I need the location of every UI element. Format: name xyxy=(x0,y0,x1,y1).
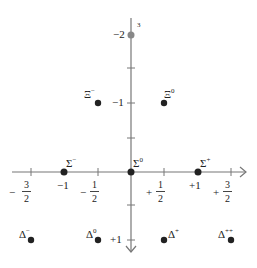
xi-zero-dot xyxy=(161,100,167,106)
label-sigma-zero: Σ0 xyxy=(133,157,143,169)
h-label-minus-3-2: 32 xyxy=(22,180,31,204)
sigma-plus-dot xyxy=(195,169,202,176)
top-marker-label: 3 xyxy=(137,22,141,29)
h-label-sign: − xyxy=(80,186,86,198)
label-delta-plusplus: Δ++ xyxy=(218,228,233,240)
delta-plus-dot xyxy=(161,237,167,243)
h-label-sign: − xyxy=(9,186,15,198)
label-delta-minus: Δ− xyxy=(19,228,30,240)
h-label-plus-3-2: 32 xyxy=(223,180,232,204)
h-label-plus-1-2: 12 xyxy=(156,180,165,204)
xi-minus-dot xyxy=(95,100,101,106)
h-label-plus1: +1 xyxy=(189,180,201,191)
sigma-zero-dot xyxy=(128,169,135,176)
v-label-plus1: +1 xyxy=(110,234,122,245)
label-sigma-plus: Σ+ xyxy=(200,157,210,169)
h-label-minus-1-2: 12 xyxy=(90,180,99,204)
label-sigma-minus: Σ− xyxy=(66,157,76,169)
h-label-sign: + xyxy=(213,186,219,198)
label-xi-zero: Ξ0 xyxy=(164,88,175,100)
label-delta-plus: Δ+ xyxy=(168,228,179,240)
label-delta-zero: Δ0 xyxy=(86,228,97,240)
label-xi-minus: Ξ− xyxy=(84,88,95,100)
h-label-sign: + xyxy=(146,186,152,198)
sigma-minus-dot xyxy=(61,169,68,176)
top-point xyxy=(128,32,135,39)
v-label-minus1: −1 xyxy=(112,97,124,108)
v-label-minus2: −2 xyxy=(113,29,125,40)
h-label-minus1: −1 xyxy=(57,180,69,191)
